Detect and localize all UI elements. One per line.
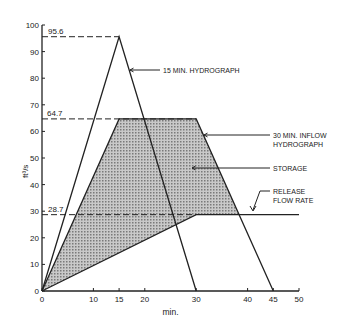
x-axis-label: min. xyxy=(162,307,178,317)
x-tick-label: 50 xyxy=(295,295,304,304)
y-tick-label: 100 xyxy=(26,21,40,30)
y-tick-label: 70 xyxy=(30,101,39,110)
hydrograph-chart: 0102030405060708090100010152030404550min… xyxy=(0,0,338,324)
y-axis-label: ft³/s xyxy=(21,165,30,178)
y-tick-label: 20 xyxy=(30,234,39,243)
ref-label-64-7: 64.7 xyxy=(47,109,63,118)
y-tick-label: 60 xyxy=(30,127,39,136)
x-tick-label: 45 xyxy=(269,295,278,304)
arrow-icon xyxy=(250,206,256,211)
x-tick-label: 10 xyxy=(89,295,98,304)
annotation-release-2: FLOW RATE xyxy=(273,197,314,204)
y-tick-label: 30 xyxy=(30,207,39,216)
annotation-30min-inflow-2: HYDROGRAPH xyxy=(273,141,323,148)
x-tick-label: 0 xyxy=(40,295,45,304)
ref-label-95-6: 95.6 xyxy=(48,27,64,36)
x-tick-label: 40 xyxy=(243,295,252,304)
y-tick-label: 10 xyxy=(30,260,39,269)
plot-area xyxy=(42,37,299,291)
annotation-storage: STORAGE xyxy=(273,165,307,172)
y-tick-label: 40 xyxy=(30,181,39,190)
x-tick-label: 30 xyxy=(192,295,201,304)
storage-area xyxy=(42,119,239,291)
ref-label-28-7: 28.7 xyxy=(48,205,64,214)
x-tick-label: 20 xyxy=(140,295,149,304)
annotation-15min-hydrograph: 15 MIN. HYDROGRAPH xyxy=(163,67,240,74)
y-tick-label: 50 xyxy=(30,154,39,163)
y-tick-label: 80 xyxy=(30,74,39,83)
annotation-release-1: RELEASE xyxy=(273,188,306,195)
y-tick-label: 90 xyxy=(30,48,39,57)
annotation-30min-inflow-1: 30 MIN. INFLOW xyxy=(273,132,327,139)
x-tick-label: 15 xyxy=(115,295,124,304)
